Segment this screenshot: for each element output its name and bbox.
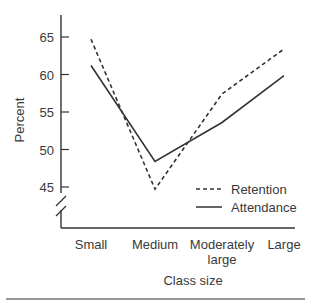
xcat-label-large-line2: large: [208, 252, 237, 267]
legend-retention-label: Retention: [231, 182, 287, 197]
xcat-label-large: Large: [267, 237, 300, 252]
attendance-series-line: [91, 66, 284, 162]
x-axis-title: Class size: [163, 273, 222, 288]
axis-break-mark: [56, 196, 66, 206]
legend-attendance-label: Attendance: [231, 200, 297, 215]
ytick-label: 65: [40, 30, 54, 45]
legend: Retention Attendance: [196, 182, 297, 215]
ytick-label: 55: [40, 105, 54, 120]
ytick-label: 45: [40, 180, 54, 195]
ytick-label: 60: [40, 68, 54, 83]
x-axis: Small Medium Moderately large Large Clas…: [61, 228, 301, 288]
ytick-label: 50: [40, 143, 54, 158]
line-chart: 65 60 55 50 45 Percent Small Medium Mode…: [0, 0, 311, 304]
xcat-label-medium: Medium: [132, 237, 178, 252]
y-axis: 65 60 55 50 45 Percent: [12, 15, 69, 228]
xcat-label-moderately: Moderately: [190, 237, 255, 252]
xcat-label-small: Small: [75, 237, 108, 252]
y-axis-title: Percent: [12, 97, 27, 142]
retention-series-line: [91, 39, 284, 189]
